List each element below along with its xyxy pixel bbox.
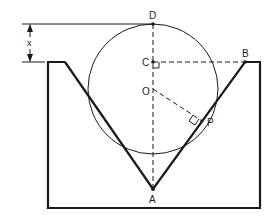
arrowhead-up-icon — [27, 24, 33, 32]
line-op-dashed — [153, 89, 202, 121]
label-a: A — [149, 194, 156, 205]
label-c: C — [142, 57, 149, 68]
label-b: B — [242, 48, 249, 59]
label-o: O — [142, 86, 150, 97]
point-c — [151, 60, 155, 64]
point-a — [151, 187, 155, 191]
point-b — [243, 60, 247, 64]
groove-block-outline — [48, 62, 260, 208]
label-d: D — [149, 10, 156, 21]
point-d — [151, 22, 155, 26]
label-x: x — [27, 38, 32, 48]
arrowhead-down-icon — [27, 54, 33, 62]
groove-circle-diagram: D C O B P A x — [0, 0, 271, 224]
right-angle-marker-p — [189, 115, 199, 125]
label-p: P — [207, 117, 214, 128]
point-p — [201, 120, 204, 123]
